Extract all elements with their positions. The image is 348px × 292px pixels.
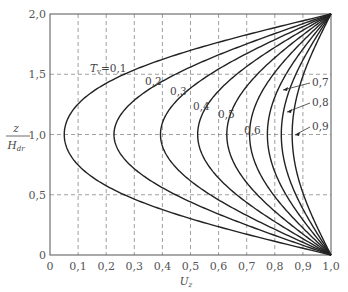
- y-tick-label: 1,0: [29, 129, 47, 142]
- curve-label: 0,5: [218, 108, 235, 120]
- x-tick-label: 0,8: [266, 260, 284, 273]
- curve-label: 0,3: [170, 85, 187, 97]
- x-tick-label: 0,3: [126, 260, 144, 273]
- x-tick-label: 1,0: [322, 260, 340, 273]
- curve-label: 0,6: [244, 124, 261, 136]
- y-tick-label: 0: [39, 249, 46, 262]
- x-tick-label: 0,9: [294, 260, 312, 273]
- x-axis-label: Uz: [180, 275, 193, 289]
- x-tick-label: 0,1: [69, 260, 87, 273]
- y-tick-label: 2,0: [29, 8, 47, 21]
- x-tick-label: 0: [47, 260, 54, 273]
- svg-text:z: z: [12, 122, 19, 134]
- curve-label: 0,7: [312, 76, 329, 88]
- y-tick-label: 0,5: [29, 189, 47, 202]
- x-tick-label: 0,2: [97, 260, 115, 273]
- curve-label: 0,2: [145, 75, 162, 87]
- curve-label: 0,9: [312, 120, 329, 132]
- x-tick-label: 0,5: [182, 260, 200, 273]
- curve-label: 0,4: [193, 100, 210, 112]
- x-tick-label: 0,6: [210, 260, 228, 273]
- x-tick-label: 0,7: [238, 260, 256, 273]
- y-axis-label: z Hdr: [6, 122, 30, 153]
- y-tick-label: 1,5: [29, 68, 47, 81]
- curve-label: 0,8: [312, 96, 329, 108]
- svg-text:Uz: Uz: [180, 275, 193, 289]
- curve-label: Tv=0,1: [90, 62, 126, 76]
- consolidation-chart: 00,10,20,30,40,50,60,70,80,91,000,51,01,…: [0, 0, 348, 292]
- svg-text:Hdr: Hdr: [7, 139, 26, 153]
- x-tick-label: 0,4: [154, 260, 172, 273]
